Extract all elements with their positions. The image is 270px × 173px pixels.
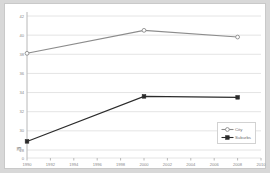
svg-text:2004: 2004: [186, 162, 196, 167]
legend-item-city[interactable]: City: [221, 125, 251, 133]
svg-text:1992: 1992: [46, 162, 56, 167]
legend-label: City: [235, 127, 242, 132]
data-point: [236, 35, 240, 39]
svg-text:2006: 2006: [210, 162, 220, 167]
data-point: [25, 140, 29, 144]
svg-text:34: 34: [19, 90, 24, 95]
svg-text:0: 0: [22, 156, 25, 161]
svg-text:2010: 2010: [256, 162, 266, 167]
data-point: [142, 28, 146, 32]
data-point: [25, 51, 29, 55]
svg-text:38: 38: [19, 52, 24, 57]
svg-text:1994: 1994: [69, 162, 79, 167]
svg-text:30: 30: [19, 128, 24, 133]
data-point: [142, 95, 146, 99]
svg-text:1990: 1990: [22, 162, 32, 167]
line-chart: 4240383634323028≋0 199019921994199619982…: [5, 4, 267, 170]
legend-marker-city-icon: [221, 126, 234, 133]
series-suburbs: [25, 95, 239, 144]
svg-text:36: 36: [19, 71, 24, 76]
svg-text:32: 32: [19, 109, 24, 114]
series-layer: [25, 28, 239, 143]
chart-legend: CitySuburbs: [217, 122, 256, 144]
y-axis-ticks: 4240383634323028≋0: [16, 14, 25, 161]
svg-text:1996: 1996: [93, 162, 103, 167]
series-city: [25, 28, 239, 55]
chart-frame: 4240383634323028≋0 199019921994199619982…: [4, 3, 266, 169]
svg-text:1998: 1998: [116, 162, 126, 167]
legend-item-suburbs[interactable]: Suburbs: [221, 133, 251, 141]
x-axis-ticks: 1990199219941996199820002002200420062008…: [22, 162, 266, 167]
svg-text:2002: 2002: [163, 162, 173, 167]
legend-label: Suburbs: [235, 135, 251, 140]
data-point: [236, 96, 240, 100]
legend-marker-suburbs-icon: [221, 134, 234, 141]
svg-text:≋: ≋: [16, 145, 22, 152]
svg-text:40: 40: [19, 33, 24, 38]
svg-text:42: 42: [19, 14, 24, 19]
svg-text:2000: 2000: [139, 162, 149, 167]
svg-text:2008: 2008: [233, 162, 243, 167]
